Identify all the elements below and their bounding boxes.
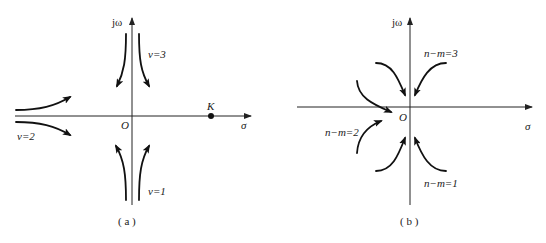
panel-a-caption: ( a ) — [118, 215, 136, 228]
branch-nu2-upper-curve — [16, 97, 70, 110]
branch-nm1-label: n−m=1 — [424, 177, 458, 189]
branch-nm3-left-curve — [376, 63, 405, 95]
imag-axis-label: jω — [391, 16, 402, 28]
branch-nu2-label: ν=2 — [17, 130, 35, 142]
branch-nm2-lower-curve — [357, 121, 381, 153]
branch-nm3-right-curve — [415, 63, 446, 95]
branch-nu3-label: ν=3 — [148, 48, 166, 60]
imag-axis-label: jω — [111, 16, 122, 28]
panel-a: jω σ O K ν=3 ν=2 ν=1 ( a ) — [15, 16, 251, 228]
branch-nu3-right-curve — [139, 34, 149, 86]
k-point-marker — [208, 113, 214, 119]
real-axis-label: σ — [525, 120, 531, 132]
branch-nm1-right-curve — [415, 138, 446, 171]
origin-label: O — [121, 119, 129, 131]
root-locus-figure: jω σ O K ν=3 ν=2 ν=1 ( a ) jω σ O n−m=3 — [0, 0, 546, 243]
panel-b: jω σ O n−m=3 n−m=2 n−m=1 ( b ) — [297, 16, 532, 228]
panel-b-caption: ( b ) — [400, 215, 419, 228]
branch-nu3-left-curve — [117, 34, 126, 86]
branch-nu1-left-curve — [116, 146, 126, 200]
branch-nm3-label: n−m=3 — [424, 47, 458, 59]
origin-label: O — [399, 111, 407, 123]
branch-nu1-label: ν=1 — [148, 185, 166, 197]
branch-nm1-left-curve — [376, 138, 405, 171]
real-axis-label: σ — [241, 119, 247, 131]
k-point-label: K — [206, 100, 215, 112]
branch-nm2-label: n−m=2 — [325, 126, 359, 138]
